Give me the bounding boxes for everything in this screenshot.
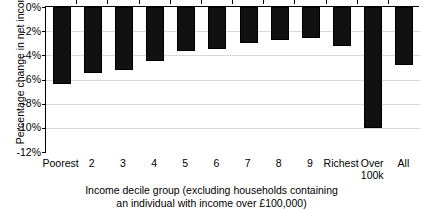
bar bbox=[333, 7, 351, 46]
y-axis-tick bbox=[42, 55, 46, 56]
x-axis-title-line-2: an individual with income over £100,000) bbox=[0, 197, 423, 210]
y-axis-tick bbox=[42, 7, 46, 8]
x-axis-tick bbox=[201, 0, 202, 4]
bar bbox=[395, 7, 413, 65]
x-axis-tick bbox=[294, 0, 295, 4]
y-axis-tick bbox=[42, 152, 46, 153]
x-axis-tick bbox=[232, 0, 233, 4]
y-axis-tick bbox=[42, 31, 46, 32]
y-axis-tick-label: -8% bbox=[3, 98, 41, 109]
y-axis-tick-label: -10% bbox=[3, 122, 41, 133]
x-axis-tick bbox=[76, 0, 77, 4]
x-axis-tick-labels: Poorest23456789RichestOver 100kAll bbox=[45, 157, 419, 183]
bar-chart-figure: Percentage change in net income 0%-2%-4%… bbox=[0, 0, 423, 209]
y-axis-tick-label: -6% bbox=[3, 74, 41, 85]
y-axis-tick bbox=[42, 128, 46, 129]
x-axis-tick bbox=[388, 0, 389, 4]
bar bbox=[271, 7, 289, 40]
x-axis-tick bbox=[263, 0, 264, 4]
bar bbox=[364, 7, 382, 128]
x-axis-tick bbox=[139, 0, 140, 4]
gridline bbox=[46, 128, 420, 129]
bar bbox=[208, 7, 226, 49]
y-axis-tick-label: -4% bbox=[3, 50, 41, 61]
y-axis-tick bbox=[42, 80, 46, 81]
bar bbox=[115, 7, 133, 70]
bar bbox=[302, 7, 320, 38]
bar bbox=[177, 7, 195, 51]
x-axis-tick-label: All bbox=[382, 157, 423, 169]
y-axis-tick-label: -12% bbox=[3, 147, 41, 158]
bar bbox=[53, 7, 71, 84]
y-axis-tick bbox=[42, 104, 46, 105]
x-axis-tick bbox=[107, 0, 108, 4]
x-axis-tick bbox=[326, 0, 327, 4]
y-axis-tick-labels: 0%-2%-4%-6%-8%-10%-12% bbox=[0, 7, 41, 152]
bar bbox=[146, 7, 164, 61]
bar bbox=[84, 7, 102, 73]
x-axis-tick bbox=[170, 0, 171, 4]
x-axis-title-line-1: Income decile group (excluding household… bbox=[85, 184, 338, 196]
bar bbox=[240, 7, 258, 43]
y-axis-tick-label: 0% bbox=[3, 2, 41, 13]
x-axis-title: Income decile group (excluding household… bbox=[0, 184, 423, 209]
x-axis-tick bbox=[357, 0, 358, 4]
y-axis-tick-label: -2% bbox=[3, 26, 41, 37]
plot-area bbox=[45, 7, 420, 152]
